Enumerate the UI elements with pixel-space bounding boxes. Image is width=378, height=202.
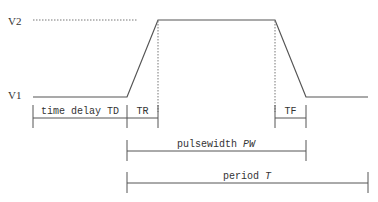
period-label: period T	[223, 171, 272, 182]
time-delay-dimension: time delay TD	[33, 105, 127, 128]
v1-label: V1	[8, 89, 21, 101]
v2-label: V2	[8, 15, 21, 27]
fall-time-dimension: TF	[275, 105, 306, 128]
pulse-timing-diagram: V2 V1 time delay TD TR TF pulsewidth PW …	[0, 0, 378, 202]
rise-time-dimension: TR	[127, 105, 158, 128]
pulse-waveform	[33, 20, 368, 97]
time-delay-label: time delay TD	[41, 106, 119, 117]
fall-time-label: TF	[284, 106, 296, 117]
pulsewidth-dimension: pulsewidth PW	[127, 139, 306, 161]
rise-time-label: TR	[136, 106, 148, 117]
period-dimension: period T	[127, 171, 368, 193]
pulsewidth-label: pulsewidth PW	[177, 139, 256, 150]
